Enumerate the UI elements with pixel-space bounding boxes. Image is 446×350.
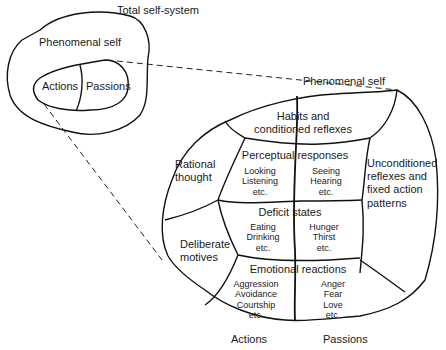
list-item: Love	[321, 300, 345, 310]
connector-bottom	[44, 104, 162, 260]
deficit-states-title: Deficit states	[259, 206, 322, 219]
phenomenal-self-label: Phenomenal self	[39, 36, 121, 49]
unconditioned-line1: Unconditioned	[367, 157, 437, 170]
list-item: Anger	[321, 279, 345, 289]
list-item: Hearing	[310, 176, 342, 186]
deliberate-line1: Deliberate	[180, 238, 230, 251]
perceptual-left-list: Looking Listening etc.	[242, 166, 278, 197]
deliberate-line2: motives	[180, 251, 230, 264]
list-item: Courtship	[233, 300, 278, 310]
list-item: Hunger	[309, 222, 339, 232]
list-item: etc.	[309, 243, 339, 253]
emotional-left-list: Aggression Avoidance Courtship etc.	[233, 279, 278, 320]
unconditioned-line4: patterns	[367, 197, 437, 210]
emotional-reactions-title: Emotional reactions	[250, 263, 347, 276]
deliberate-motives-label: Deliberate motives	[180, 238, 230, 263]
large-phenomenal-self-label: Phenomenal self	[303, 75, 385, 88]
rational-line2: thought	[175, 171, 215, 184]
actions-bottom-label: Actions	[231, 333, 267, 346]
list-item: Seeing	[310, 166, 342, 176]
list-item: etc.	[233, 310, 278, 320]
list-item: Avoidance	[233, 289, 278, 299]
deficit-right-list: Hunger Thirst etc.	[309, 222, 339, 253]
list-item: Fear	[321, 289, 345, 299]
list-item: Looking	[242, 166, 278, 176]
unconditioned-line3: fixed action	[367, 183, 437, 196]
habits-line2: conditioned reflexes	[254, 123, 352, 136]
rational-line1: Rational	[175, 158, 215, 171]
unconditioned-line2: reflexes and	[367, 170, 437, 183]
list-item: Drinking	[246, 232, 279, 242]
perceptual-right-list: Seeing Hearing etc.	[310, 166, 342, 197]
list-item: etc.	[246, 243, 279, 253]
list-item: Listening	[242, 176, 278, 186]
list-item: Eating	[246, 222, 279, 232]
unconditioned-label: Unconditioned reflexes and fixed action …	[367, 157, 437, 210]
perceptual-responses-title: Perceptual responses	[242, 149, 348, 162]
passions-label-small: Passions	[86, 80, 131, 93]
passions-bottom-label: Passions	[323, 333, 368, 346]
emotional-right-list: Anger Fear Love etc.	[321, 279, 345, 320]
actions-label-small: Actions	[42, 80, 78, 93]
list-item: Thirst	[309, 232, 339, 242]
rational-thought-label: Rational thought	[175, 158, 215, 183]
list-item: Aggression	[233, 279, 278, 289]
list-item: etc.	[242, 187, 278, 197]
deficit-left-list: Eating Drinking etc.	[246, 222, 279, 253]
list-item: etc.	[310, 187, 342, 197]
list-item: etc.	[321, 310, 345, 320]
habits-label: Habits and conditioned reflexes	[254, 110, 352, 135]
total-self-system-label: Total self-system	[117, 4, 199, 17]
habits-line1: Habits and	[254, 110, 352, 123]
total-self-outline	[7, 12, 149, 134]
